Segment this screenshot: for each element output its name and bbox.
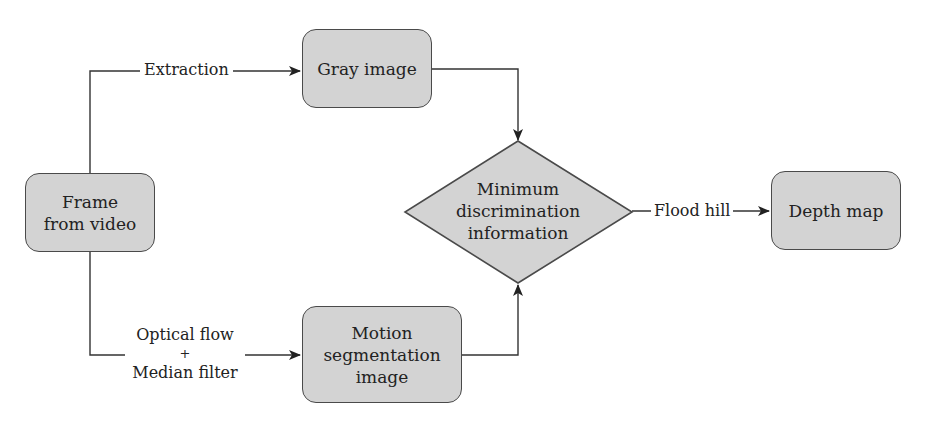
edge-label-extraction: Extraction — [140, 60, 233, 80]
optical-flow-line1: Optical flow — [125, 325, 245, 345]
motion-line1: Motion — [323, 322, 440, 344]
optical-flow-line3: Median filter — [125, 363, 245, 383]
motion-line2: segmentation — [323, 344, 440, 366]
edge-motion-to-decision — [462, 285, 518, 355]
node-motion-segmentation: Motion segmentation image — [302, 306, 462, 403]
node-depth-map: Depth map — [771, 171, 901, 250]
motion-line3: image — [323, 366, 440, 388]
optical-flow-plus: + — [125, 345, 245, 363]
edge-label-flood-hill: Flood hill — [651, 201, 733, 221]
edge-frame-to-gray — [90, 71, 300, 173]
depth-map-label: Depth map — [789, 200, 884, 222]
edge-gray-to-decision — [432, 69, 518, 140]
decision-line3: information — [440, 222, 596, 244]
frame-line2: from video — [44, 213, 136, 235]
decision-label: Minimum discrimination information — [440, 178, 596, 244]
gray-image-label: Gray image — [317, 58, 417, 80]
edge-label-optical-flow: Optical flow + Median filter — [125, 325, 245, 383]
node-frame-from-video: Frame from video — [25, 173, 155, 252]
decision-line1: Minimum — [440, 178, 596, 200]
frame-line1: Frame — [44, 191, 136, 213]
node-gray-image: Gray image — [302, 29, 432, 108]
decision-line2: discrimination — [440, 200, 596, 222]
